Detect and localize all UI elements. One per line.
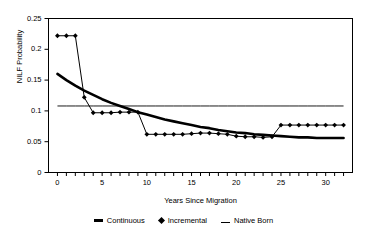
legend-item-incremental: Incremental — [159, 216, 207, 225]
x-tick-label: 5 — [89, 179, 115, 187]
x-tick-label: 0 — [44, 179, 70, 187]
x-tick-label: 20 — [223, 179, 249, 187]
legend-marker-diamond-icon — [158, 217, 165, 224]
y-axis-title: NILF Probability — [15, 7, 24, 107]
x-tick-label: 15 — [179, 179, 205, 187]
x-tick-label: 30 — [313, 179, 339, 187]
legend-marker-thin-line-icon — [221, 222, 230, 223]
legend-item-native-born: Native Born — [221, 216, 273, 225]
x-axis-title: Years Since Migration — [48, 196, 353, 205]
legend-label-native-born: Native Born — [234, 216, 273, 225]
legend-marker-thick-line-icon — [94, 219, 103, 222]
x-tick-label: 10 — [134, 179, 160, 187]
legend-item-continuous: Continuous — [94, 216, 145, 225]
legend-label-continuous: Continuous — [107, 216, 145, 225]
chart-container: 00.050.10.150.20.25 051015202530 NILF Pr… — [0, 0, 367, 239]
legend-label-incremental: Incremental — [168, 216, 207, 225]
chart-legend: Continuous Incremental Native Born — [0, 216, 367, 225]
x-tick-label: 25 — [268, 179, 294, 187]
